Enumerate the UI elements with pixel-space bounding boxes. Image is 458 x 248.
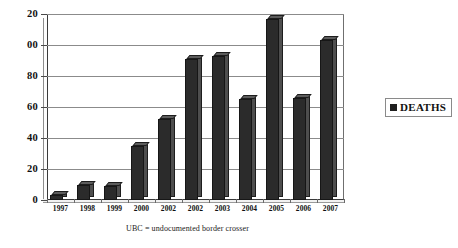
bar-2002-4 — [158, 119, 171, 200]
x-tick-label-8: 2005 — [262, 203, 292, 215]
x-axis-labels: 1997199819992000200220022003200420052006… — [47, 203, 344, 217]
y-tick-label-120: 20 — [14, 9, 38, 19]
chart-legend: DEATHS — [385, 98, 452, 117]
bar-1998-1 — [77, 185, 90, 201]
bar-2003-6 — [212, 56, 225, 200]
bar-2007-10 — [320, 40, 333, 200]
chart-container: 0204060800020 19971998199920002002200220… — [0, 0, 458, 248]
x-tick-label-0: 1997 — [46, 203, 76, 215]
bar-side-face — [333, 37, 337, 197]
x-tick-label-1: 1998 — [73, 203, 103, 215]
bar-top-face — [78, 181, 95, 185]
bar-top-face — [267, 15, 284, 19]
x-tick-label-6: 2003 — [208, 203, 238, 215]
bar-series-deaths — [47, 14, 344, 200]
x-tick-label-2: 1999 — [100, 203, 130, 215]
y-tick-label-100: 00 — [14, 40, 38, 50]
legend-square-marker-icon — [390, 104, 397, 111]
bar-1997-0 — [50, 195, 63, 200]
x-tick-label-3: 2000 — [127, 203, 157, 215]
x-tick-label-5: 2002 — [181, 203, 211, 215]
bar-side-face — [171, 116, 175, 197]
bar-side-face — [198, 56, 202, 197]
bar-side-face — [279, 16, 283, 197]
bar-side-face — [252, 96, 256, 197]
bar-2000-3 — [131, 146, 144, 200]
bar-2004-7 — [239, 99, 252, 200]
y-tick-label-60: 60 — [14, 102, 38, 112]
x-tick-label-7: 2004 — [235, 203, 265, 215]
chart-caption: UBC = undocumented border crosser — [0, 224, 375, 233]
bar-2002-5 — [185, 59, 198, 200]
y-tick-label-40: 40 — [14, 133, 38, 143]
y-tick-label-80: 80 — [14, 71, 38, 81]
bar-2005-8 — [266, 19, 279, 200]
x-tick-label-10: 2007 — [316, 203, 346, 215]
bar-side-face — [306, 95, 310, 197]
bar-top-face — [294, 94, 311, 98]
y-tick-label-0: 0 — [14, 195, 38, 205]
y-tick-label-20: 20 — [14, 164, 38, 174]
bar-1999-2 — [104, 186, 117, 200]
bar-side-face — [225, 53, 229, 197]
bar-side-face — [144, 143, 148, 197]
legend-label-deaths: DEATHS — [400, 102, 446, 113]
x-tick-label-4: 2002 — [154, 203, 184, 215]
x-tick-label-9: 2006 — [289, 203, 319, 215]
bar-2006-9 — [293, 98, 306, 200]
